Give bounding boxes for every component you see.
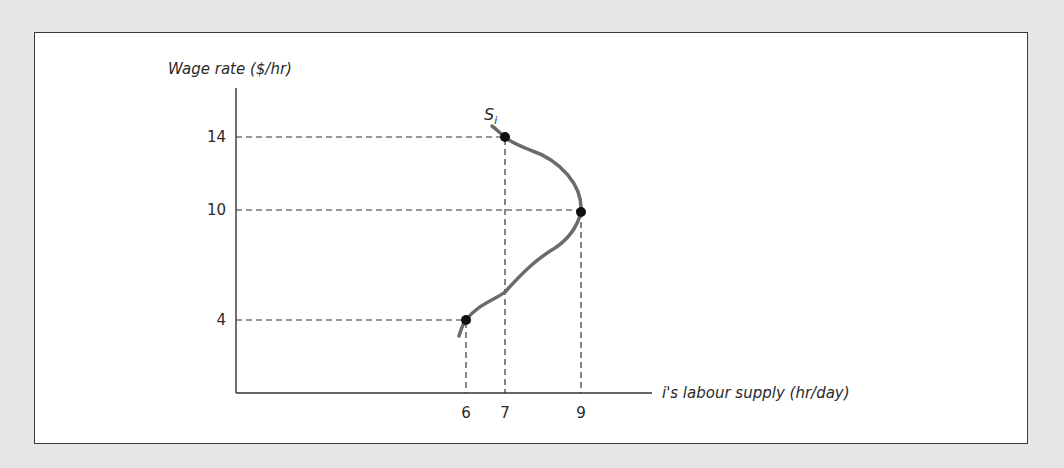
y-tick-14: 14 xyxy=(207,128,226,146)
y-axis-title: Wage rate ($/hr) xyxy=(168,60,292,78)
point-7-14 xyxy=(500,132,510,142)
labour-supply-chart: Si Wage rate ($/hr) i's labour supply (h… xyxy=(0,0,1064,468)
x-tick-7: 7 xyxy=(500,404,510,422)
y-tick-10: 10 xyxy=(207,201,226,219)
supply-curve xyxy=(459,126,581,336)
point-9-10 xyxy=(576,207,586,217)
x-tick-6: 6 xyxy=(461,404,471,422)
point-6-4 xyxy=(461,315,471,325)
curve-label: Si xyxy=(484,105,497,127)
x-tick-9: 9 xyxy=(576,404,586,422)
x-axis-title: i's labour supply (hr/day) xyxy=(662,384,850,402)
y-tick-4: 4 xyxy=(216,311,226,329)
